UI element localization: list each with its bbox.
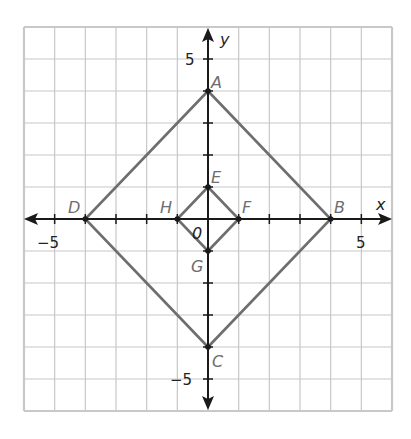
point-label-d: D [68, 198, 80, 217]
vertex-dot-a [205, 88, 211, 94]
y-axis-label: y [219, 30, 230, 49]
y-tick-label-5: 5 [185, 51, 195, 69]
vertex-dot-f [236, 216, 242, 222]
vertex-dot-h [175, 216, 181, 222]
y-tick-label-neg5: −5 [170, 371, 192, 389]
vertex-dot-c [205, 344, 211, 350]
coordinate-plane: y x 5 −5 −5 5 0 A B C D E F G H [0, 0, 411, 439]
point-label-c: C [212, 352, 224, 371]
x-axis-label: x [375, 195, 386, 214]
point-labels: A B C D E F G H [68, 73, 345, 371]
vertex-dot-d [83, 216, 89, 222]
vertex-dot-g [205, 248, 211, 254]
origin-label: 0 [192, 224, 202, 243]
point-label-b: B [334, 198, 345, 217]
vertex-dot-e [205, 184, 211, 190]
point-label-a: A [210, 73, 222, 92]
x-tick-label-5: 5 [356, 234, 366, 252]
x-tick-label-neg5: −5 [37, 234, 59, 252]
point-label-h: H [160, 198, 172, 217]
point-label-f: F [242, 198, 252, 217]
axes [24, 28, 392, 410]
vertex-dot-b [328, 216, 334, 222]
point-label-e: E [211, 168, 222, 187]
point-label-g: G [191, 257, 203, 276]
